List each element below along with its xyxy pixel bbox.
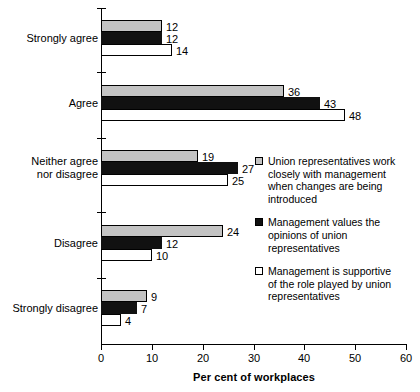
bar xyxy=(101,290,147,302)
legend-entry: Management is supportiveof the role play… xyxy=(255,265,417,303)
bar xyxy=(101,32,162,44)
bar-value-label: 7 xyxy=(141,303,147,315)
category-label-line: Disagree xyxy=(0,237,98,250)
bar xyxy=(101,249,152,261)
y-axis-tick xyxy=(97,278,106,279)
y-axis-tick-top xyxy=(97,8,106,9)
legend-swatch-icon xyxy=(255,157,263,165)
x-axis-tick-label: 10 xyxy=(132,352,172,364)
legend-entry: Union representatives workclosely with m… xyxy=(255,155,417,205)
legend-swatch-icon xyxy=(255,267,263,275)
category-label-line: Strongly agree xyxy=(0,32,98,45)
legend-label-line: Union representatives work xyxy=(268,155,417,168)
chart-legend: Union representatives workclosely with m… xyxy=(255,155,417,314)
bar-value-label: 12 xyxy=(166,238,178,250)
bar xyxy=(101,150,198,162)
x-axis-tick xyxy=(304,345,305,350)
y-axis-tick xyxy=(97,72,106,73)
bar-value-label: 4 xyxy=(125,315,131,327)
bar xyxy=(101,97,320,109)
x-axis-tick-label: 0 xyxy=(81,352,121,364)
x-axis-tick-label: 20 xyxy=(183,352,223,364)
bar-value-label: 14 xyxy=(176,45,188,57)
category-label: Disagree xyxy=(0,237,98,250)
x-axis-title: Per cent of workplaces xyxy=(101,371,407,383)
category-label: Neither agreenor disagree xyxy=(0,155,98,181)
category-label-line: Neither agree xyxy=(0,155,98,168)
x-axis-tick xyxy=(254,345,255,350)
bar xyxy=(101,109,345,121)
legend-label-line: representatives xyxy=(268,242,417,255)
x-axis-tick xyxy=(203,345,204,350)
legend-swatch-icon xyxy=(255,218,263,226)
bar-value-label: 10 xyxy=(156,250,168,262)
bar xyxy=(101,85,284,97)
x-axis-tick-label: 40 xyxy=(284,352,324,364)
bar xyxy=(101,20,162,32)
bar-value-label: 48 xyxy=(349,110,361,122)
legend-label-line: introduced xyxy=(268,193,417,206)
x-axis-tick xyxy=(152,345,153,350)
legend-label-line: opinions of union xyxy=(268,229,417,242)
bar-value-label: 9 xyxy=(151,291,157,303)
legend-label-line: when changes are being xyxy=(268,180,417,193)
bar-value-label: 24 xyxy=(227,226,239,238)
bar-value-label: 12 xyxy=(166,21,178,33)
x-axis-tick xyxy=(101,345,102,350)
legend-label-line: closely with management xyxy=(268,168,417,181)
y-axis-tick xyxy=(97,212,106,213)
bar xyxy=(101,44,172,56)
bar xyxy=(101,225,223,237)
category-label-line: Agree xyxy=(0,97,98,110)
legend-entry: Management values theopinions of unionre… xyxy=(255,216,417,254)
bar xyxy=(101,302,137,314)
bar xyxy=(101,174,228,186)
bar xyxy=(101,314,121,326)
x-axis-tick-label: 30 xyxy=(234,352,274,364)
x-axis-tick xyxy=(355,345,356,350)
category-label: Strongly agree xyxy=(0,32,98,45)
category-label: Agree xyxy=(0,97,98,110)
bar xyxy=(101,237,162,249)
legend-label-line: Management values the xyxy=(268,216,417,229)
category-label-line: Strongly disagree xyxy=(0,302,98,315)
bar xyxy=(101,162,238,174)
legend-label-line: of the role played by union xyxy=(268,278,417,291)
legend-label-line: Management is supportive xyxy=(268,265,417,278)
x-axis-tick-label: 60 xyxy=(386,352,420,364)
bar-value-label: 27 xyxy=(242,163,254,175)
y-axis-tick xyxy=(97,138,106,139)
category-label: Strongly disagree xyxy=(0,302,98,315)
x-axis-tick xyxy=(406,345,407,350)
category-label-line: nor disagree xyxy=(0,168,98,181)
x-axis-tick-label: 50 xyxy=(335,352,375,364)
legend-label-line: representatives xyxy=(268,290,417,303)
grouped-bar-chart: 0102030405060 Strongly agreeAgreeNeither… xyxy=(0,0,420,392)
bar-value-label: 25 xyxy=(232,175,244,187)
